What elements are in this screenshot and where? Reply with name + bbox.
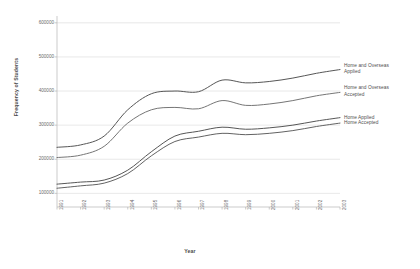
x-tick-label: 1993 (106, 176, 111, 210)
series-label-1: Home and Overseas Applied (344, 63, 389, 75)
series-label-2: Home and Overseas Accepted (344, 85, 389, 97)
x-axis-tick-labels: 1991199219931994199519961997199819992000… (0, 0, 420, 269)
x-tick-label: 1996 (177, 176, 182, 210)
x-tick-label: 2001 (295, 176, 300, 210)
x-tick-label: 1991 (59, 176, 64, 210)
series-label-4: Home Accepted (344, 120, 379, 126)
x-tick-label: 1999 (247, 176, 252, 210)
x-tick-label: 1997 (200, 176, 205, 210)
x-tick-label: 2003 (342, 176, 347, 210)
x-tick-label: 1992 (82, 176, 87, 210)
line-chart: 100000200000300000400000500000600000 199… (0, 0, 420, 269)
x-tick-label: 1994 (130, 176, 135, 210)
x-tick-label: 2002 (318, 176, 323, 210)
x-tick-label: 1995 (153, 176, 158, 210)
x-tick-label: 2000 (271, 176, 276, 210)
x-tick-label: 1998 (224, 176, 229, 210)
x-axis-title: Year (150, 248, 230, 254)
y-axis-title: Frequency of Students (13, 27, 19, 147)
